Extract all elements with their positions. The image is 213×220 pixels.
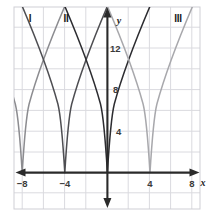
parabolas-figure: −8 −4 4 8 4 8 12 x y I II III xyxy=(0,0,213,220)
x-tick-label-8: 8 xyxy=(189,178,194,189)
x-tick-label-neg8: −8 xyxy=(17,178,28,189)
curve-label-iii: III xyxy=(174,13,182,24)
x-axis-label: x xyxy=(200,177,206,188)
y-tick-label-8: 8 xyxy=(113,84,118,95)
y-axis-label: y xyxy=(116,15,122,26)
curve-label-ii: II xyxy=(64,13,69,24)
x-tick-label-neg4: −4 xyxy=(59,178,71,189)
y-tick-label-12: 12 xyxy=(110,43,121,54)
x-tick-label-4: 4 xyxy=(147,178,153,189)
y-tick-label-4: 4 xyxy=(116,126,122,137)
graph-svg: −8 −4 4 8 4 8 12 x y I II III xyxy=(0,0,213,220)
